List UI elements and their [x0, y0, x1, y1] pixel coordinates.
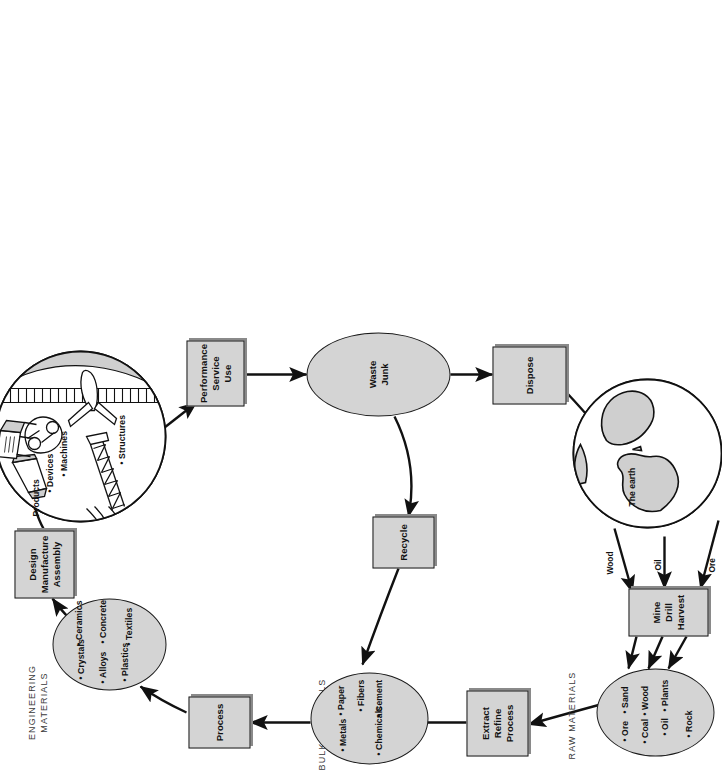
earth-label: The earth [626, 467, 636, 506]
group-label-raw-materials: RAW MATERIALS [566, 660, 578, 770]
products-illustrations [0, 350, 166, 522]
products-label: Products [30, 479, 40, 516]
edge-label-oil: Oil [652, 559, 662, 570]
products-item-1: Machines [58, 430, 68, 476]
raw-item-1: Coal [639, 718, 649, 743]
node-raw-materials: Ore Coal Oil Sand Wood Plants Rock [596, 668, 714, 756]
raw-item-4: Wood [639, 685, 649, 715]
bulk-item-0: Metals [337, 718, 347, 751]
node-performance-service-use: Performance Service Use [186, 340, 244, 406]
node-design-manufacture-assembly: Design Manufacture Assembly [14, 530, 74, 598]
raw-item-5: Plants [659, 679, 669, 711]
raw-item-6: Rock [683, 710, 693, 737]
edge-label-wood: Wood [604, 551, 614, 574]
waste-ellipse-label: Waste Junk [366, 360, 391, 388]
design-box-label: Design Manufacture Assembly [26, 535, 62, 593]
performance-box-label: Performance Service Use [197, 343, 233, 402]
eng-item-5: Textiles [123, 607, 133, 645]
products-item-2: Structures [116, 414, 126, 464]
eng-item-3: Plastics [119, 642, 129, 681]
node-extract-refine-process: Extract Refine Process [466, 690, 528, 756]
bulk-item-1: Paper [335, 685, 345, 715]
process-box-label: Process [213, 703, 225, 741]
bulk-item-3: Cement [373, 679, 383, 717]
mine-box-label: Mine Drill Harvest [650, 594, 686, 630]
extract-box-label: Extract Refine Process [479, 704, 515, 742]
bulk-materials-items: Metals Paper Chemicals Cement Fibers [311, 673, 427, 763]
raw-item-0: Ore [619, 720, 629, 741]
dispose-box-label: Dispose [523, 356, 535, 394]
node-process: Process [188, 696, 250, 748]
eng-item-4: Concrete [97, 599, 107, 643]
node-mine-drill-harvest: Mine Drill Harvest [628, 588, 708, 636]
node-bulk-materials: Metals Paper Chemicals Cement Fibers [310, 672, 428, 764]
earth-continents-art [572, 378, 722, 528]
products-item-0: Devices [44, 453, 54, 492]
recycle-box-label: Recycle [397, 524, 409, 561]
bulk-item-4: Fibers [355, 679, 365, 711]
group-label-engineering-materials: ENGINEERING MATERIALS [26, 650, 49, 754]
node-recycle: Recycle [372, 516, 434, 568]
node-dispose: Dispose [492, 346, 566, 404]
node-waste-junk: Waste Junk [306, 332, 450, 416]
edge-label-ore: Ore [706, 558, 716, 572]
node-engineering-materials: Crystals Ceramics Alloys Plastics Concre… [52, 598, 166, 690]
raw-item-3: Sand [619, 686, 629, 713]
eng-item-2: Alloys [97, 651, 107, 683]
raw-materials-items: Ore Coal Oil Sand Wood Plants Rock [597, 669, 713, 755]
raw-item-2: Oil [659, 718, 669, 735]
engineering-materials-items: Crystals Ceramics Alloys Plastics Concre… [53, 599, 165, 689]
eng-item-1: Ceramics [73, 600, 83, 645]
